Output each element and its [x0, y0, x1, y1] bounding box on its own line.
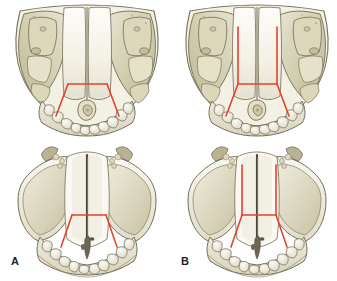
panel-b: B [181, 5, 328, 277]
panel-b-inferior-view [188, 147, 326, 277]
panel-b-superior-view [186, 5, 328, 136]
panel-a-superior-view [16, 5, 158, 136]
anatomical-figure: A B [0, 0, 337, 281]
panel-a-inferior-view [18, 147, 156, 277]
panel-b-label: B [181, 255, 189, 267]
panel-a: A [11, 5, 158, 277]
panel-a-label: A [11, 255, 19, 267]
